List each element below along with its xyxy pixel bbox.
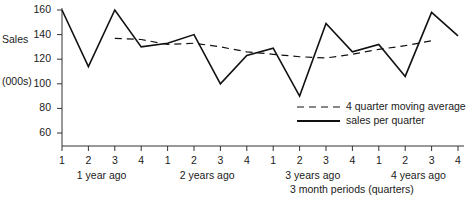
x-tick-label: 1 [161,154,175,166]
x-group-label: 1 year ago [42,169,162,181]
x-tick-label: 4 [345,154,359,166]
x-tick-label: 1 [266,154,280,166]
y-tick-label: 100 [29,77,51,89]
data-series-layer [62,10,458,96]
x-axis-title: 3 month periods (quarters) [290,183,414,195]
y-tick-label: 80 [29,101,51,113]
x-tick-label: 2 [187,154,201,166]
legend-item-sales-per-quarter: sales per quarter [346,114,425,126]
x-tick-label: 1 [55,154,69,166]
y-tick-label: 160 [29,3,51,15]
x-tick-label: 3 [425,154,439,166]
x-tick-label: 1 [372,154,386,166]
y-tick-label: 60 [29,126,51,138]
x-tick-label: 4 [134,154,148,166]
y-axis-ticks [57,10,62,133]
y-tick-label: 120 [29,52,51,64]
x-group-label: 3 years ago [253,169,373,181]
x-tick-label: 3 [319,154,333,166]
x-tick-label: 4 [451,154,465,166]
x-axis-ticks [62,146,458,151]
x-tick-label: 2 [293,154,307,166]
x-group-label: 4 years ago [358,169,467,181]
y-tick-label: 140 [29,28,51,40]
legend-item-moving-average: 4 quarter moving average [346,100,466,112]
sales-quarterly-chart: Sales (000s) 6080100120140160 1234123412… [0,0,467,200]
x-tick-label: 2 [81,154,95,166]
x-group-label: 2 years ago [147,169,267,181]
x-tick-label: 2 [398,154,412,166]
x-tick-label: 3 [108,154,122,166]
x-tick-label: 4 [240,154,254,166]
legend-line-samples [297,107,340,121]
x-tick-label: 3 [213,154,227,166]
